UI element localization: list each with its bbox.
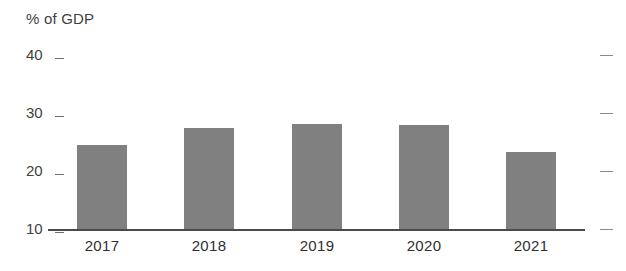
y-axis-tick-dash	[55, 116, 64, 117]
plot-area: 10203040 20172018201920202021	[0, 0, 626, 271]
bar-chart: % of GDP 10203040 20172018201920202021	[0, 0, 626, 271]
y-axis-right-tick	[600, 55, 613, 56]
x-axis-label: 2019	[277, 236, 357, 256]
y-axis-tick-label: 10	[26, 219, 50, 239]
y-axis-tick-dash	[55, 174, 64, 175]
y-axis-tick-dash	[55, 232, 64, 233]
y-axis-right-tick	[600, 229, 613, 230]
y-axis-tick-label: 40	[26, 45, 50, 65]
bar	[184, 128, 234, 229]
x-axis-label: 2017	[62, 236, 142, 256]
x-axis-label: 2020	[384, 236, 464, 256]
y-axis-tick-dash	[55, 58, 64, 59]
y-axis-tick: 30	[26, 103, 64, 123]
bar	[77, 145, 127, 229]
y-axis-tick: 20	[26, 161, 64, 181]
y-axis-tick: 40	[26, 45, 64, 65]
x-axis-label: 2018	[169, 236, 249, 256]
y-axis-tick-label: 30	[26, 103, 50, 123]
bar	[399, 125, 449, 229]
x-axis-label: 2021	[491, 236, 571, 256]
bar	[292, 124, 342, 229]
y-axis-right-tick	[600, 113, 613, 114]
bar	[506, 152, 556, 229]
x-axis-baseline	[48, 229, 585, 231]
y-axis-right-tick	[600, 171, 613, 172]
y-axis-tick-label: 20	[26, 161, 50, 181]
